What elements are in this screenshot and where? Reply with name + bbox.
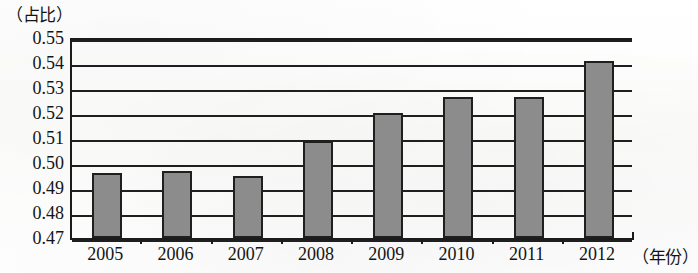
plot-area: [70, 38, 632, 238]
x-tick-label: 2006: [157, 244, 193, 265]
x-tick-label: 2011: [509, 244, 544, 265]
x-axis-tick: [562, 238, 564, 244]
x-axis-tick: [421, 238, 423, 244]
x-axis-title: （年份）: [632, 243, 698, 268]
x-tick-label: 2012: [579, 244, 615, 265]
y-tick-label: 0.54: [33, 53, 65, 74]
x-tick-label: 2009: [368, 244, 404, 265]
y-tick-label: 0.49: [33, 178, 65, 199]
x-axis-tick: [351, 238, 353, 244]
bar: [303, 141, 333, 239]
y-tick-label: 0.53: [33, 78, 65, 99]
y-tick-label: 0.48: [33, 203, 65, 224]
bar: [584, 61, 614, 239]
y-tick-label: 0.55: [33, 28, 65, 49]
bars-layer: [72, 40, 632, 238]
x-tick-label: 2008: [298, 244, 334, 265]
x-axis-end-cap: [632, 232, 634, 240]
y-tick-label: 0.52: [33, 103, 65, 124]
x-axis-tick: [281, 238, 283, 244]
bar-chart-figure: （占比） 0.550.540.530.520.510.500.490.480.4…: [0, 0, 698, 273]
x-axis-tick: [140, 238, 142, 244]
y-tick-label: 0.47: [33, 228, 65, 249]
bar: [162, 171, 192, 239]
x-axis-tick: [211, 238, 213, 244]
bar: [443, 97, 473, 238]
bar: [514, 97, 544, 238]
bar: [233, 176, 263, 239]
y-axis-tick-labels: 0.550.540.530.520.510.500.490.480.47: [0, 0, 68, 273]
y-tick-label: 0.50: [33, 153, 65, 174]
x-tick-label: 2007: [228, 244, 264, 265]
x-tick-label: 2005: [87, 244, 123, 265]
bar: [92, 173, 122, 238]
y-tick-label: 0.51: [33, 128, 65, 149]
bar: [373, 113, 403, 238]
x-tick-label: 2010: [438, 244, 474, 265]
x-axis-tick: [492, 238, 494, 244]
